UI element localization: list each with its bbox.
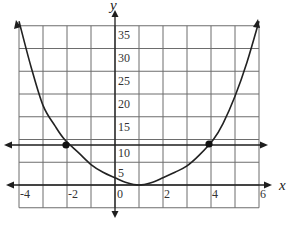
x-tick-0: 0 [117, 187, 123, 201]
x-tick-neg2: -2 [68, 187, 78, 201]
grid [19, 26, 259, 208]
x-axis-label: x [278, 177, 286, 193]
right-intersection-point [205, 140, 212, 147]
curve-right-arrow-icon [253, 19, 260, 28]
y-tick-20: 20 [118, 97, 130, 111]
y-tick-35: 35 [118, 28, 130, 42]
y-tick-10: 10 [118, 146, 130, 160]
x-axis-left-arrow-icon [6, 182, 14, 189]
curve [14, 19, 260, 185]
y-tick-25: 25 [118, 74, 130, 88]
y-axis-label: y [108, 0, 117, 13]
hline-right-arrow-icon [260, 142, 268, 149]
y-tick-5: 5 [118, 166, 124, 180]
left-intersection-point [62, 141, 69, 148]
y-tick-15: 15 [118, 120, 130, 134]
hline-left-arrow-icon [4, 142, 12, 149]
horizontal-line [4, 142, 268, 149]
x-tick-neg4: -4 [20, 187, 30, 201]
x-tick-6: 6 [260, 187, 266, 201]
graph: y x 35 30 25 20 15 10 5 -4 -2 0 2 4 6 [0, 0, 296, 226]
y-axis-down-arrow-icon [112, 211, 119, 218]
x-tick-4: 4 [212, 187, 218, 201]
x-tick-2: 2 [164, 187, 170, 201]
y-tick-30: 30 [118, 51, 130, 65]
